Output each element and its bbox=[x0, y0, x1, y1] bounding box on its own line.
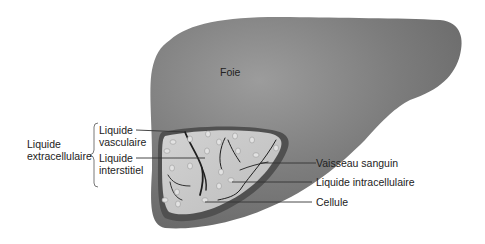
liver-diagram bbox=[0, 0, 485, 244]
extracellular-fluid-label: Liquide extracellulaire bbox=[27, 138, 97, 162]
vascular-line1: Liquide bbox=[99, 124, 146, 136]
interstitial-fluid-label: Liquide interstitiel bbox=[99, 152, 143, 176]
extracellular-line1: Liquide bbox=[27, 138, 97, 150]
interstitial-line2: interstitiel bbox=[99, 164, 143, 176]
intracellular-fluid-label: Liquide intracellulaire bbox=[316, 176, 415, 188]
extracellular-line2: extracellulaire bbox=[27, 150, 97, 162]
vascular-fluid-label: Liquide vasculaire bbox=[99, 124, 146, 148]
blood-vessel-label: Vaisseau sanguin bbox=[316, 157, 398, 169]
interstitial-line1: Liquide bbox=[99, 152, 143, 164]
liver-label: Foie bbox=[220, 66, 240, 78]
vascular-line2: vasculaire bbox=[99, 136, 146, 148]
cell-label: Cellule bbox=[316, 196, 348, 208]
